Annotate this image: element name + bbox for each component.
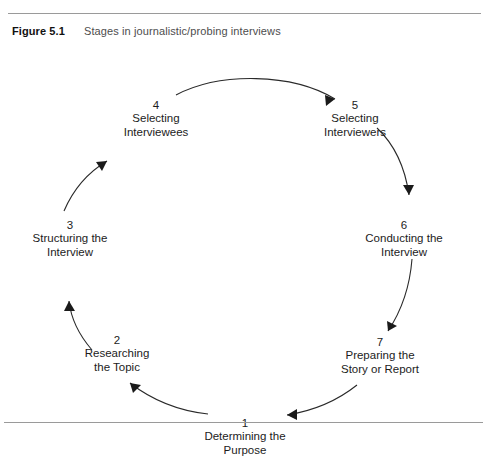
stage-label-2-line1: Researching: [85, 347, 150, 361]
stage-label-4: Selecting Interviewees: [124, 112, 189, 139]
stage-number-2: 2: [85, 333, 150, 347]
stage-number-4: 4: [124, 98, 189, 112]
stage-label-5: Selecting Interviewers: [324, 112, 386, 139]
stage-node-7: 7 Preparing the Story or Report: [341, 335, 419, 376]
stage-number-1: 1: [204, 416, 285, 430]
stage-label-1: Determining the Purpose: [204, 430, 285, 457]
stage-label-5-line1: Selecting: [324, 112, 386, 126]
stage-number-6: 6: [365, 218, 442, 232]
stage-node-6: 6 Conducting the Interview: [365, 218, 442, 259]
stage-number-7: 7: [341, 335, 419, 349]
stage-label-3-line2: Interview: [33, 246, 108, 260]
stage-node-4: 4 Selecting Interviewees: [124, 98, 189, 139]
stage-label-6: Conducting the Interview: [365, 232, 442, 259]
stage-number-5: 5: [324, 98, 386, 112]
stage-label-6-line1: Conducting the: [365, 232, 442, 246]
bottom-divider: [4, 422, 483, 423]
stage-label-5-line2: Interviewers: [324, 126, 386, 140]
stage-label-7-line1: Preparing the: [341, 349, 419, 363]
stage-label-1-line1: Determining the: [204, 430, 285, 444]
cycle-diagram: 4 Selecting Interviewees 5 Selecting Int…: [0, 40, 489, 420]
stage-label-1-line2: Purpose: [204, 444, 285, 458]
stage-label-7: Preparing the Story or Report: [341, 349, 419, 376]
stage-label-3: Structuring the Interview: [33, 232, 108, 259]
arrow-stage-7-to-1: [287, 385, 357, 420]
stage-node-3: 3 Structuring the Interview: [33, 218, 108, 259]
stage-node-5: 5 Selecting Interviewers: [324, 98, 386, 139]
stage-label-2: Researching the Topic: [85, 347, 150, 374]
arrow-stage-4-to-5: [176, 79, 335, 106]
stage-label-2-line2: the Topic: [85, 361, 150, 375]
arrow-stage-1-to-2: [130, 383, 208, 414]
stage-label-7-line2: Story or Report: [341, 363, 419, 377]
stage-node-2: 2 Researching the Topic: [85, 333, 150, 374]
stage-number-3: 3: [33, 218, 108, 232]
stage-label-4-line1: Selecting: [124, 112, 189, 126]
figure-caption-text: Stages in journalistic/probing interview…: [84, 25, 281, 37]
arrow-stage-3-to-4: [64, 161, 107, 211]
stage-label-6-line2: Interview: [365, 246, 442, 260]
stage-label-3-line1: Structuring the: [33, 232, 108, 246]
figure-number-label: Figure 5.1: [12, 25, 65, 37]
arrow-stage-6-to-7: [387, 259, 412, 331]
stage-label-4-line2: Interviewees: [124, 126, 189, 140]
figure-caption: Figure 5.1 Stages in journalistic/probin…: [12, 24, 281, 38]
top-divider: [8, 13, 481, 14]
